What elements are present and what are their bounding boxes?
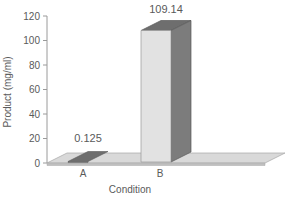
bar-a-front <box>68 162 88 163</box>
x-axis-title: Condition <box>109 184 151 195</box>
chart-canvas: 0 20 40 60 80 100 120 0.125 109.14 <box>0 0 295 198</box>
y-tick-label-60: 60 <box>29 84 41 95</box>
y-tick-label-20: 20 <box>29 133 41 144</box>
y-tick-label-0: 0 <box>34 158 40 169</box>
y-axis-title: Product (mg/ml) <box>2 56 13 127</box>
bar-chart: 0 20 40 60 80 100 120 0.125 109.14 <box>0 0 295 198</box>
bar-b[interactable] <box>141 21 191 163</box>
y-tick-label-80: 80 <box>29 60 41 71</box>
x-category-label-a: A <box>80 168 87 179</box>
data-label-a: 0.125 <box>74 132 102 144</box>
x-category-label-b: B <box>157 168 164 179</box>
bar-b-front <box>141 31 171 163</box>
y-tick-label-40: 40 <box>29 109 41 120</box>
y-tick-label-120: 120 <box>23 11 40 22</box>
data-label-b: 109.14 <box>149 3 183 15</box>
y-tick-label-100: 100 <box>23 35 40 46</box>
bar-b-side <box>171 21 191 163</box>
y-axis-ticks <box>43 16 47 163</box>
